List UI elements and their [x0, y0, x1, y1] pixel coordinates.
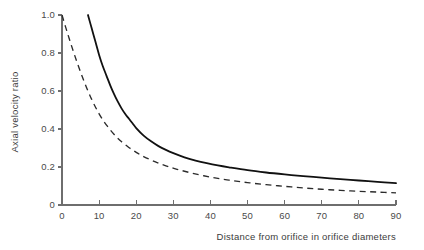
- x-tick-label: 0: [59, 210, 64, 221]
- y-tick-label: 0: [50, 199, 55, 210]
- x-tick-label: 10: [94, 210, 105, 221]
- x-tick-label: 60: [279, 210, 290, 221]
- x-tick-label: 80: [353, 210, 364, 221]
- y-tick-label: 0.6: [41, 85, 55, 96]
- y-tick-label: 1.0: [41, 9, 55, 20]
- y-tick-label: 0.8: [41, 47, 55, 58]
- x-tick-label: 20: [131, 210, 142, 221]
- chart-container: 00.20.40.60.81.0 0102030405060708090 Axi…: [0, 0, 424, 250]
- x-tick-label: 90: [391, 210, 402, 221]
- axial-velocity-ratio-chart: 00.20.40.60.81.0 0102030405060708090 Axi…: [0, 0, 424, 250]
- y-tick-label: 0.2: [41, 161, 55, 172]
- x-tick-label: 50: [242, 210, 253, 221]
- x-tick-label: 70: [316, 210, 327, 221]
- y-tick-label: 0.4: [41, 123, 55, 134]
- x-tick-label: 30: [168, 210, 179, 221]
- x-tick-label: 40: [205, 210, 216, 221]
- y-axis-title: Axial velocity ratio: [9, 71, 20, 152]
- x-axis-title: Distance from orifice in orifice diamete…: [217, 231, 396, 242]
